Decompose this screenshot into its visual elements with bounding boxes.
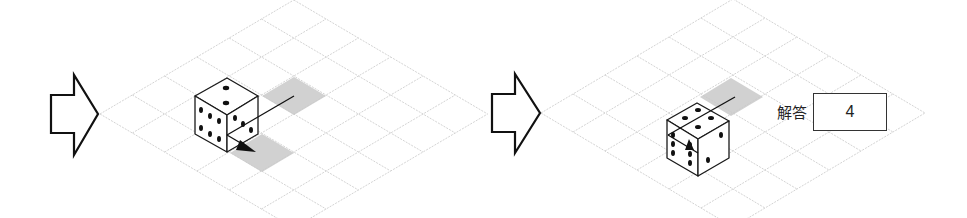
- grid-line: [262, 19, 456, 133]
- grid-line: [294, 114, 488, 218]
- answer-value: 4: [846, 103, 855, 121]
- answer-input-box[interactable]: 4: [813, 93, 887, 131]
- answer-label: 解答: [777, 103, 807, 123]
- right-arrow-icon: [51, 75, 98, 155]
- right-arrow-icon: [492, 74, 540, 153]
